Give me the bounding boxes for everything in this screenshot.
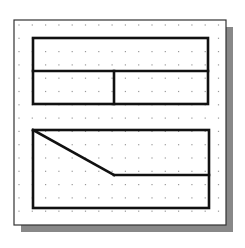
grid-dot	[218, 157, 219, 158]
grid-dot	[191, 51, 192, 52]
grid-dot	[151, 171, 152, 172]
grid-dot	[205, 51, 206, 52]
grid-dot	[151, 197, 152, 198]
grid-dot	[218, 91, 219, 92]
grid-dot	[58, 64, 59, 65]
grid-dot	[58, 91, 59, 92]
grid-dot	[191, 78, 192, 79]
grid-dot	[18, 144, 19, 145]
grid-dot	[191, 197, 192, 198]
grid-dot	[125, 144, 126, 145]
grid-dot	[178, 118, 179, 119]
grid-dot	[112, 184, 113, 185]
grid-dot	[205, 157, 206, 158]
grid-dot	[98, 197, 99, 198]
grid-dot	[178, 197, 179, 198]
grid-dot	[58, 157, 59, 158]
grid-dot	[218, 171, 219, 172]
grid-dot	[98, 118, 99, 119]
grid-dot	[18, 24, 19, 25]
grid-dot	[58, 197, 59, 198]
grid-dot	[151, 78, 152, 79]
grid-dot	[151, 157, 152, 158]
grid-dot	[165, 78, 166, 79]
grid-dot	[85, 197, 86, 198]
grid-dot	[151, 118, 152, 119]
grid-dot	[165, 197, 166, 198]
grid-dot	[85, 211, 86, 212]
grid-dot	[191, 24, 192, 25]
grid-dot	[85, 78, 86, 79]
grid-dot	[205, 118, 206, 119]
grid-dot	[151, 184, 152, 185]
grid-dot	[18, 38, 19, 39]
grid-dot	[72, 78, 73, 79]
grid-dot	[85, 64, 86, 65]
grid-dot	[218, 51, 219, 52]
grid-dot	[151, 91, 152, 92]
grid-dot	[72, 24, 73, 25]
grid-dot	[58, 24, 59, 25]
grid-dot	[18, 78, 19, 79]
grid-dot	[112, 157, 113, 158]
grid-dot	[58, 51, 59, 52]
grid-dot	[165, 211, 166, 212]
grid-dot	[72, 211, 73, 212]
grid-dot	[45, 78, 46, 79]
grid-dot	[178, 171, 179, 172]
grid-dot	[138, 211, 139, 212]
grid-dot	[178, 51, 179, 52]
grid-dot	[205, 144, 206, 145]
grid-dot	[151, 144, 152, 145]
grid-dot	[18, 197, 19, 198]
grid-dot	[18, 131, 19, 132]
grid-dot	[151, 64, 152, 65]
grid-dot	[58, 171, 59, 172]
grid-dot	[18, 51, 19, 52]
grid-dot	[165, 184, 166, 185]
grid-dot	[112, 118, 113, 119]
grid-dot	[218, 64, 219, 65]
grid-dot	[98, 211, 99, 212]
grid-dot	[18, 118, 19, 119]
grid-dot	[125, 184, 126, 185]
grid-dot	[205, 197, 206, 198]
grid-dot	[112, 91, 113, 92]
grid-dot	[85, 171, 86, 172]
grid-dot	[45, 91, 46, 92]
grid-dot	[165, 157, 166, 158]
drawing-canvas	[0, 0, 245, 248]
grid-dot	[165, 64, 166, 65]
grid-dot	[72, 64, 73, 65]
grid-dot	[18, 104, 19, 105]
grid-dot	[178, 91, 179, 92]
grid-dot	[205, 78, 206, 79]
grid-dot	[72, 184, 73, 185]
grid-dot	[218, 211, 219, 212]
grid-dot	[112, 64, 113, 65]
grid-dot	[125, 171, 126, 172]
grid-dot	[138, 91, 139, 92]
grid-dot	[112, 51, 113, 52]
grid-dot	[138, 78, 139, 79]
grid-dot	[98, 64, 99, 65]
grid-dot	[45, 24, 46, 25]
grid-dot	[112, 197, 113, 198]
grid-dot	[218, 24, 219, 25]
grid-dot	[151, 211, 152, 212]
grid-dot	[112, 78, 113, 79]
grid-dot	[151, 51, 152, 52]
grid-dot	[125, 211, 126, 212]
grid-dot	[18, 91, 19, 92]
grid-dot	[178, 157, 179, 158]
grid-dot	[72, 144, 73, 145]
grid-dot	[125, 51, 126, 52]
grid-dot	[218, 197, 219, 198]
grid-dot	[45, 144, 46, 145]
grid-dot	[191, 171, 192, 172]
drawing-frame	[14, 20, 226, 225]
grid-dot	[138, 184, 139, 185]
grid-dot	[125, 64, 126, 65]
grid-dot	[112, 211, 113, 212]
grid-dot	[18, 171, 19, 172]
